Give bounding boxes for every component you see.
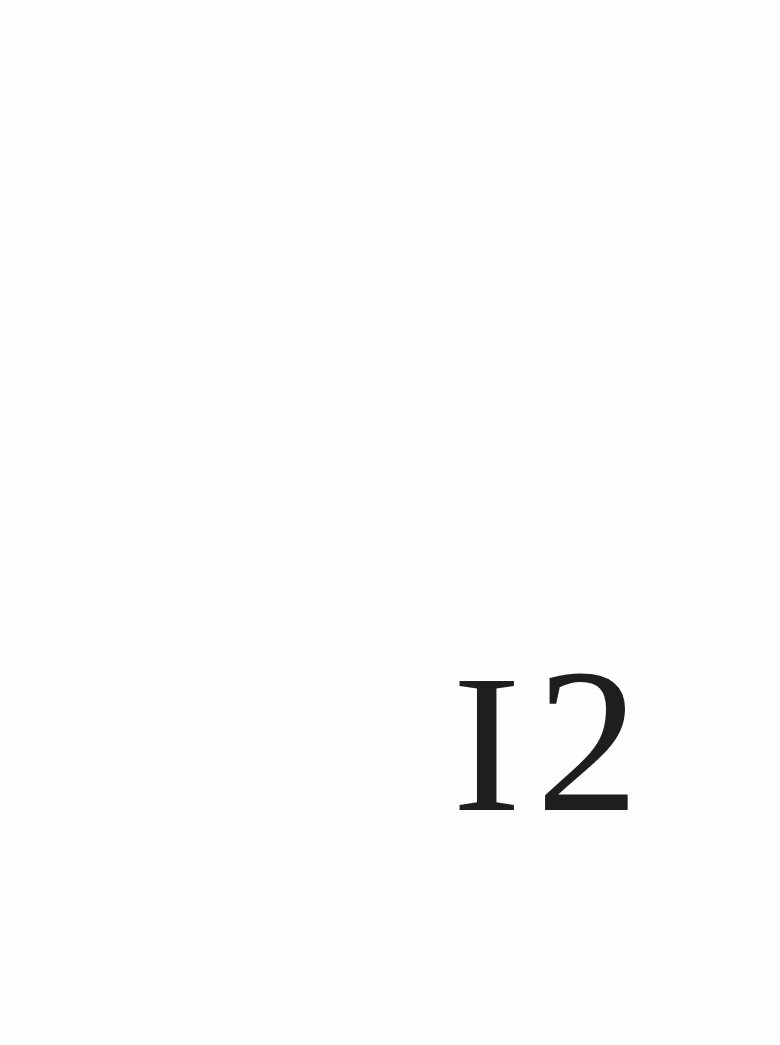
chapter-number-digit-two: 2 (536, 641, 643, 841)
document-page: I2 (0, 0, 780, 1045)
chapter-number-digit-one: I (452, 644, 525, 844)
chapter-number: I2 (452, 640, 712, 840)
